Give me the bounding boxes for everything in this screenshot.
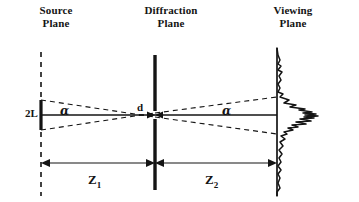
label-distance-z1-text: Z (88, 172, 97, 187)
dimension-arrow-z1-left (41, 159, 50, 167)
label-distance-z2-text: Z (205, 172, 214, 187)
label-angle-right: α (222, 104, 231, 118)
label-slit-size: d (137, 101, 143, 113)
label-distance-z2: Z2 (205, 172, 218, 190)
label-distance-z1: Z1 (88, 172, 101, 190)
ray-diverging-lower (155, 117, 277, 134)
label-aperture-size: 2L (25, 107, 38, 119)
label-distance-z2-subscript: 2 (214, 180, 219, 190)
ray-diverging-upper (155, 97, 277, 113)
diagram-canvas (0, 0, 359, 202)
dimension-arrow-z2-right (268, 159, 277, 167)
diffraction-diagram: Source Plane Diffraction Plane Viewing P… (0, 0, 359, 202)
label-distance-z1-subscript: 1 (97, 180, 102, 190)
label-angle-left: α (60, 104, 69, 118)
diffraction-intensity-curve-icon (277, 48, 318, 196)
